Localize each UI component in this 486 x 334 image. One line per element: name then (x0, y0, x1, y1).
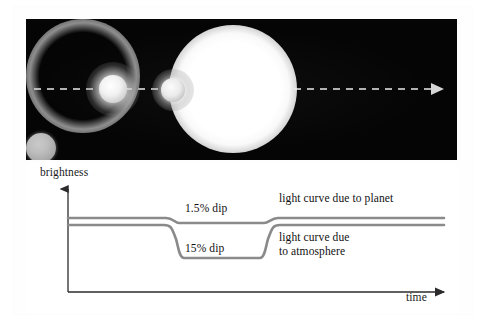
planet-mid-glow (152, 69, 194, 111)
orbit-dashed-path-icon (34, 88, 434, 90)
figure-plate: brightness time 1.5% dip 15% dip light c… (0, 0, 486, 334)
annotation-curve-planet: light curve due to planet (279, 192, 393, 204)
star-atmosphere-ring (26, 19, 140, 133)
y-axis-label: brightness (40, 166, 88, 178)
light-curve-chart: brightness time 1.5% dip 15% dip light c… (26, 163, 457, 314)
transit-illustration-panel (26, 19, 457, 160)
annotation-curve-atmosphere-line1: light curve due (279, 231, 349, 245)
annotation-dip-large: 15% dip (185, 242, 224, 254)
annotation-curve-atmosphere-line2: to atmosphere (279, 245, 349, 259)
x-axis-label: time (406, 291, 427, 303)
curve-planet (68, 218, 444, 223)
transiting-planet-disc (26, 133, 56, 160)
annotation-curve-atmosphere: light curve due to atmosphere (279, 231, 349, 258)
light-curve-plot (26, 163, 457, 314)
curve-atmosphere (68, 225, 444, 258)
annotation-dip-small: 1.5% dip (185, 202, 227, 214)
orbit-arrowhead-icon (431, 83, 444, 95)
planet-mid-disc (161, 78, 185, 102)
